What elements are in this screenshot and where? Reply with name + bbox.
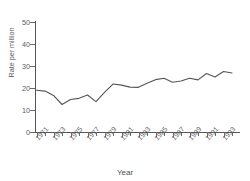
x-tick-label: 1973 (51, 125, 67, 141)
y-tick-label: 30 (0, 63, 30, 70)
x-tick-label: 1985 (153, 125, 169, 141)
data-series-line (0, 0, 250, 181)
x-tick-label: 1981 (119, 125, 135, 141)
x-tick-label: 1991 (204, 125, 220, 141)
x-tick-label: 1979 (102, 125, 118, 141)
y-tick (30, 66, 35, 67)
x-tick-label: 1975 (68, 125, 84, 141)
x-tick-label: 1989 (187, 125, 203, 141)
y-tick (30, 132, 35, 133)
y-tick-label: 20 (0, 85, 30, 92)
y-tick (30, 22, 35, 23)
x-tick-label: 1993 (221, 125, 237, 141)
chart-figure: Rate per million Year 01020304050 197119… (0, 0, 250, 181)
y-tick-label: 40 (0, 41, 30, 48)
x-tick-label: 1977 (85, 125, 101, 141)
chart-title (56, 0, 196, 1)
x-axis-label: Year (0, 168, 250, 177)
y-tick-label: 10 (0, 107, 30, 114)
y-axis-line (35, 21, 36, 133)
y-tick-label: 0 (0, 129, 30, 136)
y-tick (30, 88, 35, 89)
x-tick-label: 1983 (136, 125, 152, 141)
y-tick (30, 110, 35, 111)
x-tick-label: 1987 (170, 125, 186, 141)
y-axis-label: Rate per million (7, 18, 16, 88)
y-tick-label: 50 (0, 19, 30, 26)
y-tick (30, 44, 35, 45)
